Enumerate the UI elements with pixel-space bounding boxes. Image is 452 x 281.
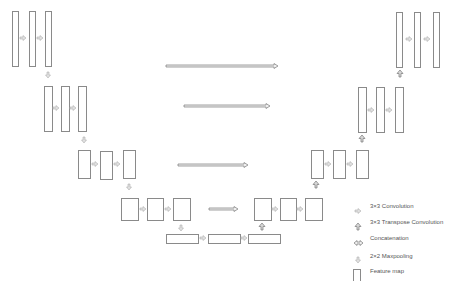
feature-map-b2 bbox=[209, 235, 241, 244]
conv-arrow-icon bbox=[325, 162, 331, 167]
feature-map-b3 bbox=[249, 235, 281, 244]
feature-map-d1c bbox=[434, 13, 440, 68]
feature-map-d1a bbox=[397, 13, 403, 68]
transpose-conv-arrow-icon bbox=[359, 135, 365, 142]
maxpool-arrow-icon bbox=[82, 137, 87, 143]
conv-arrow-icon bbox=[114, 162, 120, 167]
conv-arrow-icon bbox=[368, 108, 374, 113]
feature-map-b1 bbox=[167, 235, 199, 244]
conv-arrow-icon bbox=[37, 36, 43, 41]
legend-conv-icon bbox=[355, 209, 361, 214]
transpose-conv-arrow-icon bbox=[397, 70, 403, 77]
feature-map-d3b bbox=[334, 151, 346, 179]
feature-map-e3c bbox=[124, 151, 136, 179]
conv-arrow-icon bbox=[70, 106, 76, 111]
feature-map-d4a bbox=[255, 199, 272, 221]
legend-concat-icon bbox=[354, 241, 363, 246]
conv-arrow-icon bbox=[406, 37, 412, 42]
conv-arrow-icon bbox=[140, 207, 146, 212]
conv-arrow-icon bbox=[92, 162, 98, 167]
legend-pool-icon bbox=[356, 257, 361, 263]
conv-arrow-icon bbox=[241, 236, 247, 241]
conv-arrow-icon bbox=[347, 162, 353, 167]
feature-map-e4a bbox=[122, 199, 139, 221]
legend-concatenation: Concatenation bbox=[370, 235, 409, 241]
feature-map-e2c bbox=[79, 87, 87, 132]
skip-connection-arrow bbox=[178, 163, 248, 168]
maxpool-arrow-icon bbox=[179, 225, 184, 231]
feature-map-d4c bbox=[306, 199, 323, 221]
feature-map-d1b bbox=[415, 13, 421, 68]
feature-map-e4c bbox=[174, 199, 191, 221]
feature-map-e1b bbox=[30, 12, 36, 67]
feature-map-e2a bbox=[45, 87, 53, 132]
feature-map-e1a bbox=[13, 12, 19, 67]
maxpool-arrow-icon bbox=[127, 184, 132, 190]
legend-up-icon bbox=[355, 223, 361, 230]
feature-map-d3c bbox=[357, 151, 369, 179]
skip-connection-arrow bbox=[209, 207, 238, 212]
legend-feature-map: Feature map bbox=[370, 268, 404, 274]
conv-arrow-icon bbox=[20, 36, 26, 41]
feature-map-d4b bbox=[281, 199, 297, 221]
conv-arrow-icon bbox=[272, 207, 278, 212]
legend-feature-map-icon bbox=[354, 270, 361, 281]
conv-arrow-icon bbox=[200, 236, 206, 241]
legend-label: 3×3 Transpose Convolution bbox=[370, 219, 443, 225]
feature-map-e4b bbox=[148, 199, 164, 221]
conv-arrow-icon bbox=[297, 207, 303, 212]
feature-map-d3a bbox=[312, 151, 324, 179]
conv-arrow-icon bbox=[165, 207, 171, 212]
feature-map-d2c bbox=[396, 88, 404, 133]
skip-connection-arrow bbox=[166, 64, 278, 69]
feature-map-e3b bbox=[101, 152, 113, 180]
skip-connection-arrow bbox=[184, 104, 270, 109]
legend-label: 3×3 Convolution bbox=[370, 203, 414, 209]
conv-arrow-icon bbox=[424, 37, 430, 42]
legend-label: Feature map bbox=[370, 268, 404, 274]
legend-label: Concatenation bbox=[370, 235, 409, 241]
legend-maxpooling: 2×2 Maxpooling bbox=[370, 253, 413, 259]
legend-transpose-convolution: 3×3 Transpose Convolution bbox=[370, 219, 443, 225]
legend-convolution: 3×3 Convolution bbox=[370, 203, 414, 209]
legend-label: 2×2 Maxpooling bbox=[370, 253, 413, 259]
conv-arrow-icon bbox=[386, 108, 392, 113]
transpose-conv-arrow-icon bbox=[313, 181, 319, 188]
maxpool-arrow-icon bbox=[46, 72, 51, 78]
transpose-conv-arrow-icon bbox=[259, 223, 265, 230]
feature-map-e2b bbox=[62, 87, 70, 132]
feature-map-d2b bbox=[377, 88, 385, 133]
conv-arrow-icon bbox=[53, 106, 59, 111]
feature-map-e1c bbox=[46, 12, 52, 67]
feature-map-e3a bbox=[79, 151, 91, 179]
feature-map-d2a bbox=[359, 88, 367, 133]
